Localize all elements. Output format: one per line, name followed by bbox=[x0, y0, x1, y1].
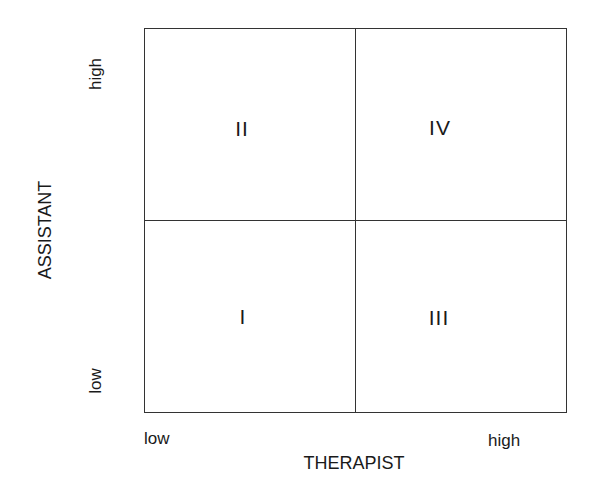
horizontal-divider bbox=[145, 220, 566, 221]
quadrant-label-top-right: IV bbox=[429, 117, 451, 138]
quadrant-grid bbox=[144, 28, 567, 413]
y-axis-title: ASSISTANT bbox=[36, 181, 54, 280]
quadrant-label-bottom-right: III bbox=[429, 307, 450, 328]
quadrant-label-top-left: II bbox=[235, 118, 249, 139]
y-axis-high-label: high bbox=[87, 58, 104, 90]
x-axis-low-label: low bbox=[144, 430, 170, 447]
x-axis-high-label: high bbox=[488, 432, 520, 449]
x-axis-title: THERAPIST bbox=[303, 454, 404, 472]
quadrant-label-bottom-left: I bbox=[240, 306, 247, 327]
y-axis-low-label: low bbox=[87, 368, 104, 394]
